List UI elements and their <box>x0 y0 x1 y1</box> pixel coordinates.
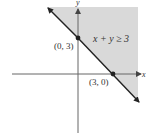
point-label-0-3: (0, 3) <box>54 41 74 51</box>
inequality-graph: y x x + y ≥ 3 (0, 3) (3, 0) <box>0 0 146 140</box>
inequality-label: x + y ≥ 3 <box>92 33 129 44</box>
point-x-intercept <box>111 72 116 77</box>
point-label-3-0: (3, 0) <box>89 77 109 87</box>
point-y-intercept <box>76 36 81 41</box>
x-axis-label: x <box>141 70 146 79</box>
y-axis-label: y <box>75 0 80 7</box>
